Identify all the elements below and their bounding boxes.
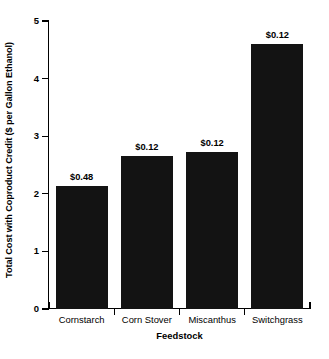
y-axis-tick: [42, 251, 49, 252]
y-axis-tick-label: 4: [21, 74, 39, 84]
x-axis-label-switchgrass: Switchgrass: [245, 315, 310, 324]
y-axis-tick-label: 2: [21, 189, 39, 199]
y-axis-title-text: Total Cost with Coproduct Credit ($ per …: [4, 42, 14, 278]
x-axis-title: Feedstock: [49, 331, 310, 340]
x-axis-tick: [114, 308, 115, 315]
x-axis-label-corn-stover: Corn Stover: [114, 315, 179, 324]
bar-value-label: $0.12: [186, 139, 238, 148]
x-axis-tick: [179, 308, 180, 315]
bar-cornstarch: [56, 186, 108, 309]
bar-switchgrass: [251, 44, 303, 309]
y-axis-tick: [42, 193, 49, 194]
bar-value-label: $0.48: [56, 173, 108, 182]
bar-value-label: $0.12: [121, 143, 173, 152]
y-axis-tick-label: 5: [21, 16, 39, 26]
x-axis-label-miscanthus: Miscanthus: [180, 315, 245, 324]
y-axis-tick-label: 3: [21, 131, 39, 141]
plot-area: [49, 21, 310, 309]
x-axis-label-cornstarch: Cornstarch: [49, 315, 114, 324]
y-axis-title: Total Cost with Coproduct Credit ($ per …: [0, 0, 18, 320]
y-axis-tick: [42, 20, 49, 21]
y-axis-tick: [42, 78, 49, 79]
bar-corn-stover: [121, 156, 173, 309]
y-axis-tick-label: 0: [21, 304, 39, 314]
y-axis-tick-label: 1: [21, 246, 39, 256]
x-axis-tick: [244, 308, 245, 315]
bar-value-label: $0.12: [251, 31, 303, 40]
bar-chart: Total Cost with Coproduct Credit ($ per …: [0, 0, 329, 359]
bar-miscanthus: [186, 152, 238, 309]
y-axis-tick: [42, 136, 49, 137]
